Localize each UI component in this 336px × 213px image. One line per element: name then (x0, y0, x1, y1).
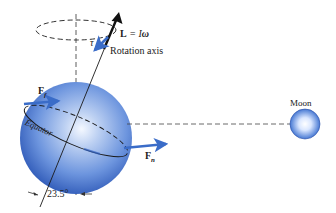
near-force-label: Fn (145, 151, 155, 164)
torque-label: τ (90, 38, 94, 48)
earth-sphere (20, 82, 132, 194)
equals-I: = I (127, 28, 142, 39)
omega-symbol: ω (142, 28, 149, 39)
f-subscript: f (44, 91, 46, 99)
moon-label: Moon (290, 99, 312, 108)
L-symbol: L (120, 28, 127, 39)
precession-diagram (0, 0, 336, 213)
n-subscript: n (151, 156, 155, 164)
angular-momentum-arrowhead (112, 12, 123, 24)
rotation-axis-label: Rotation axis (110, 46, 163, 56)
angular-momentum-label: L = Iω (120, 29, 149, 39)
moon-sphere (290, 109, 320, 139)
tilt-angle-label: 23.5° (47, 189, 69, 199)
far-force-label: Ff (38, 86, 46, 99)
